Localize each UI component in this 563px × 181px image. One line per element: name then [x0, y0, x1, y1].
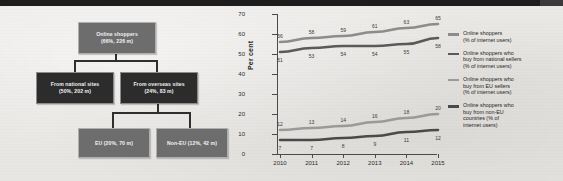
data-label: 54	[372, 51, 378, 57]
connector	[74, 60, 158, 62]
data-label: 11	[404, 137, 409, 143]
diagram-node-online-shoppers: Online shoppers (66%, 226 m)	[78, 22, 156, 54]
legend-label: Online shoppers(% of internet users)	[463, 30, 512, 43]
y-tick-label: 50	[238, 51, 245, 57]
legend-label-line: Online shoppers who	[463, 50, 521, 57]
data-label: 7	[279, 145, 282, 151]
data-label: 20	[435, 105, 441, 111]
legend-label-line: (% of internet users)	[463, 37, 512, 44]
line-chart: Per cent 010203040506070 201020112012201…	[248, 6, 448, 181]
legend-label-line: buy from non-EU	[463, 109, 514, 116]
connector	[112, 112, 114, 128]
node-line-1: Non-EU (12%, 42 m)	[167, 140, 217, 147]
legend-label-line: internet users)	[463, 122, 514, 129]
data-label: 58	[309, 29, 315, 35]
connector	[156, 60, 158, 72]
legend-swatch	[448, 79, 459, 82]
legend-label-line: buy from national sellers	[463, 56, 521, 63]
node-line-2: (50%, 202 m)	[51, 88, 100, 95]
legend-item-2[interactable]: Online shoppers whobuy from EU sellers(%…	[448, 76, 563, 96]
node-line-1: EU (20%, 70 m)	[95, 140, 133, 147]
data-label: 7	[310, 145, 313, 151]
legend-label-line: Online shoppers	[463, 30, 512, 37]
legend-item-0[interactable]: Online shoppers(% of internet users)	[448, 30, 563, 43]
connector	[112, 112, 191, 114]
data-label: 12	[435, 135, 441, 141]
node-line-1: From overseas sites	[133, 81, 184, 88]
diagram-node-national-sites: From national sites (50%, 202 m)	[36, 72, 114, 104]
diagram-node-non-eu: Non-EU (12%, 42 m)	[156, 128, 228, 158]
series-line-1	[280, 38, 438, 52]
legend-label: Online shoppers whobuy from national sel…	[463, 50, 521, 70]
legend-item-1[interactable]: Online shoppers whobuy from national sel…	[448, 50, 563, 70]
data-label: 18	[404, 109, 410, 115]
data-label: 55	[404, 49, 410, 55]
diagram-node-overseas-sites: From overseas sites (24%, 83 m)	[120, 72, 198, 104]
data-label: 61	[372, 23, 378, 29]
legend-label: Online shoppers whobuy from EU sellers(%…	[463, 76, 514, 96]
data-label: 58	[435, 43, 441, 49]
data-label: 51	[277, 57, 283, 63]
legend-label-line: (% of internet users)	[463, 89, 514, 96]
data-label: 12	[277, 121, 283, 127]
connector	[74, 60, 76, 72]
data-label: 9	[373, 141, 376, 147]
legend-swatch	[448, 105, 459, 108]
data-label: 63	[404, 19, 410, 25]
data-label: 54	[340, 51, 346, 57]
data-label: 53	[309, 53, 315, 59]
data-label: 16	[372, 113, 378, 119]
data-label: 59	[340, 27, 346, 33]
top-black-bar-right	[540, 0, 563, 6]
legend-swatch	[448, 53, 459, 56]
y-tick-label: 10	[238, 131, 245, 137]
data-label: 14	[340, 117, 346, 123]
data-label: 8	[342, 143, 345, 149]
data-label: 65	[435, 15, 441, 21]
legend-label: Online shoppers whobuy from non-EUcountr…	[463, 102, 514, 128]
diagram-node-eu: EU (20%, 70 m)	[78, 128, 150, 158]
legend-label-line: buy from EU sellers	[463, 83, 514, 90]
legend-label-line: (% of internet users)	[463, 63, 521, 70]
legend-label-line: Online shoppers who	[463, 76, 514, 83]
node-line-1: From national sites	[51, 81, 100, 88]
y-tick-label: 60	[238, 31, 245, 37]
connector	[189, 112, 191, 128]
y-tick-label: 0	[242, 151, 245, 157]
chart-legend: Online shoppers(% of internet users)Onli…	[448, 30, 563, 135]
flow-diagram: Online shoppers (66%, 226 m) From nation…	[0, 10, 248, 181]
y-tick-label: 70	[238, 11, 245, 17]
node-line-1: Online shoppers	[96, 31, 138, 38]
node-line-2: (66%, 226 m)	[96, 38, 138, 45]
legend-item-3[interactable]: Online shoppers whobuy from non-EUcountr…	[448, 102, 563, 128]
series-line-2	[280, 114, 438, 130]
node-line-2: (24%, 83 m)	[133, 88, 184, 95]
data-label: 56	[277, 33, 283, 39]
series-line-0	[280, 24, 438, 42]
series-line-3	[280, 130, 438, 140]
y-tick-label: 40	[238, 71, 245, 77]
legend-label-line: Online shoppers who	[463, 102, 514, 109]
data-label: 13	[309, 119, 315, 125]
legend-swatch	[448, 33, 459, 36]
legend-label-line: countries (% of	[463, 115, 514, 122]
y-tick-label: 20	[238, 111, 245, 117]
y-tick-label: 30	[238, 91, 245, 97]
